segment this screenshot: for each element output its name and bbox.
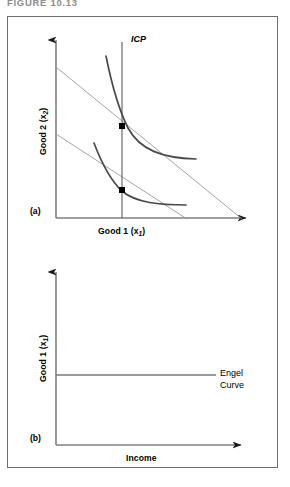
panel-b-y-axis-label: Good 1 (x1) — [38, 335, 48, 382]
engel-curve-label: EngelCurve — [220, 368, 244, 391]
panel-a-y-axis-label-sub: 2 — [42, 111, 49, 115]
panel-a-x-axis-label-close: ) — [142, 226, 145, 236]
panel-a-x-axis-label-sub: 1 — [139, 230, 143, 237]
panel-a-y-axis-label-text: Good 2 (x — [38, 114, 48, 155]
figure-frame-border — [7, 16, 278, 468]
panel-b-tag: (b) — [30, 433, 41, 443]
panel-a-y-axis-label: Good 2 (x2) — [38, 108, 48, 155]
panel-b-x-axis-label: Income — [126, 453, 157, 463]
engel-curve-label-line2: Curve — [220, 380, 244, 390]
figure-caption: FIGURE 10.13 — [7, 0, 78, 7]
engel-curve-label-line1: Engel — [220, 368, 243, 378]
figure-root: FIGURE 10.13 — [0, 0, 290, 487]
panel-a-x-axis-label-text: Good 1 (x — [98, 226, 139, 236]
panel-b-y-axis-label-text: Good 1 (x — [38, 341, 48, 382]
panel-b-y-axis-label-sub: 1 — [42, 338, 49, 342]
panel-a-tag: (a) — [30, 206, 41, 216]
panel-a-x-axis-label: Good 1 (x1) — [98, 226, 145, 236]
icp-label: ICP — [131, 34, 146, 44]
